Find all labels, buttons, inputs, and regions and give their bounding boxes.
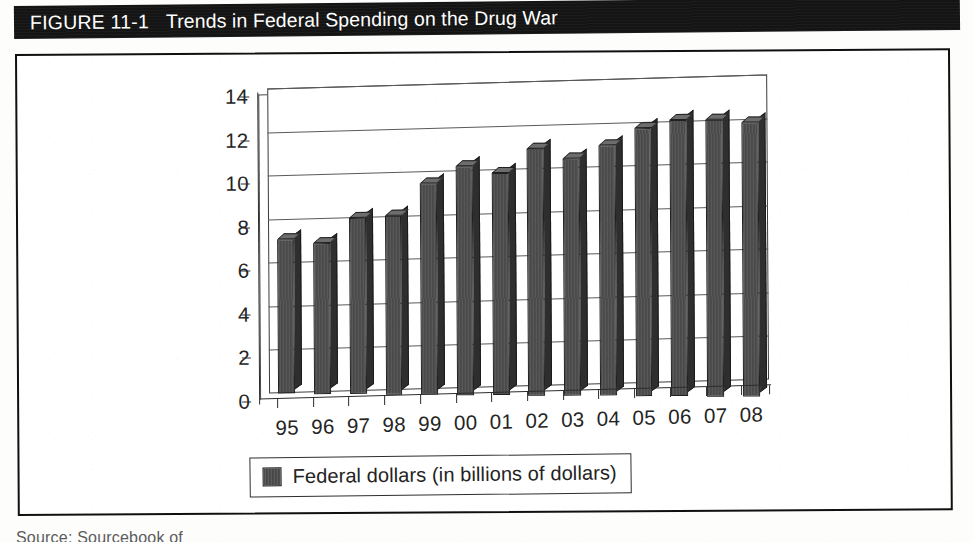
bar-side-face [437,173,445,389]
x-axis-label: 96 [311,414,335,439]
y-axis-label: 4 [238,302,250,326]
bar-front-face [456,166,474,395]
bar-front-face [278,239,296,394]
bar-front-face [385,216,403,395]
y-axis-label: 12 [225,128,249,152]
legend-swatch-icon [262,467,281,486]
bar-front-face [313,243,331,393]
bar [741,122,759,397]
bar [456,166,474,395]
bar [349,218,367,395]
bar-side-face [580,148,588,391]
bar [705,120,723,397]
bar-side-face [294,229,302,389]
bar-side-face [366,207,374,389]
bar-front-face [741,122,759,397]
figure-number: FIGURE 11-1 [30,10,149,34]
y-axis-label: 8 [237,215,249,239]
x-axis-label: 98 [382,412,406,437]
x-axis-tick [456,394,457,403]
source-note: Source: Sourcebook of [16,529,183,542]
bar-front-face [634,128,652,396]
bar [670,120,688,397]
x-axis-label: 97 [347,413,371,438]
bar [563,158,581,396]
x-axis-label: 05 [632,405,656,430]
plot-area: 02468101214 9596979899000102030405060708 [267,85,769,393]
bar [527,149,545,395]
bar-side-face [508,163,516,390]
chart-container: 02468101214 9596979899000102030405060708… [207,71,830,505]
bar-side-face [330,233,338,388]
x-axis-label: 08 [740,402,764,427]
bar-front-face [491,173,509,395]
x-axis-tick [634,389,635,398]
bar-side-face [472,156,480,390]
chart-legend: Federal dollars (in billions of dollars) [249,453,632,497]
bar [313,243,331,393]
x-axis-tick [769,385,770,394]
bar-front-face [349,218,367,395]
x-axis-label: 03 [561,407,585,432]
x-axis-label: 02 [525,408,549,433]
x-axis-label: 07 [704,403,728,428]
bar [634,128,652,396]
x-axis-tick [313,398,314,407]
figure-frame: 02468101214 9596979899000102030405060708… [15,48,953,516]
bar-front-face [670,120,688,397]
x-axis-label: 01 [490,409,514,434]
x-axis-tick [349,397,350,406]
y-axis-label: 0 [238,390,250,414]
bar-front-face [527,149,545,395]
bar [598,145,616,396]
x-axis-tick [384,396,385,405]
x-axis-tick [741,386,742,395]
x-axis-label: 04 [597,406,621,431]
bar [491,173,509,395]
x-axis-tick [491,393,492,402]
x-axis-tick [670,388,671,397]
x-axis-tick [706,387,707,396]
y-axis-label: 14 [225,85,249,109]
bar [420,183,438,394]
bar [278,239,296,394]
x-axis-tick [563,391,564,400]
y-axis-label: 10 [225,172,249,196]
bar-front-face [598,145,616,396]
y-axis-label: 6 [238,259,250,283]
bar-front-face [705,120,723,397]
x-axis-tick [277,399,278,408]
figure-title-inner: FIGURE 11-1 Trends in Federal Spending o… [30,6,558,34]
legend-label: Federal dollars (in billions of dollars) [292,461,616,488]
bar-front-face [420,183,438,394]
bar-front-face [563,158,581,396]
y-axis-label: 2 [238,346,250,370]
x-axis-label: 00 [454,410,478,435]
x-axis-tick [599,390,600,399]
figure-title: Trends in Federal Spending on the Drug W… [166,6,558,33]
x-axis-tick [527,392,528,401]
x-axis-label: 99 [418,411,442,436]
bar [385,216,403,395]
x-axis-label: 06 [668,404,692,429]
x-axis-label: 95 [275,415,299,440]
x-axis-tick [420,395,421,404]
